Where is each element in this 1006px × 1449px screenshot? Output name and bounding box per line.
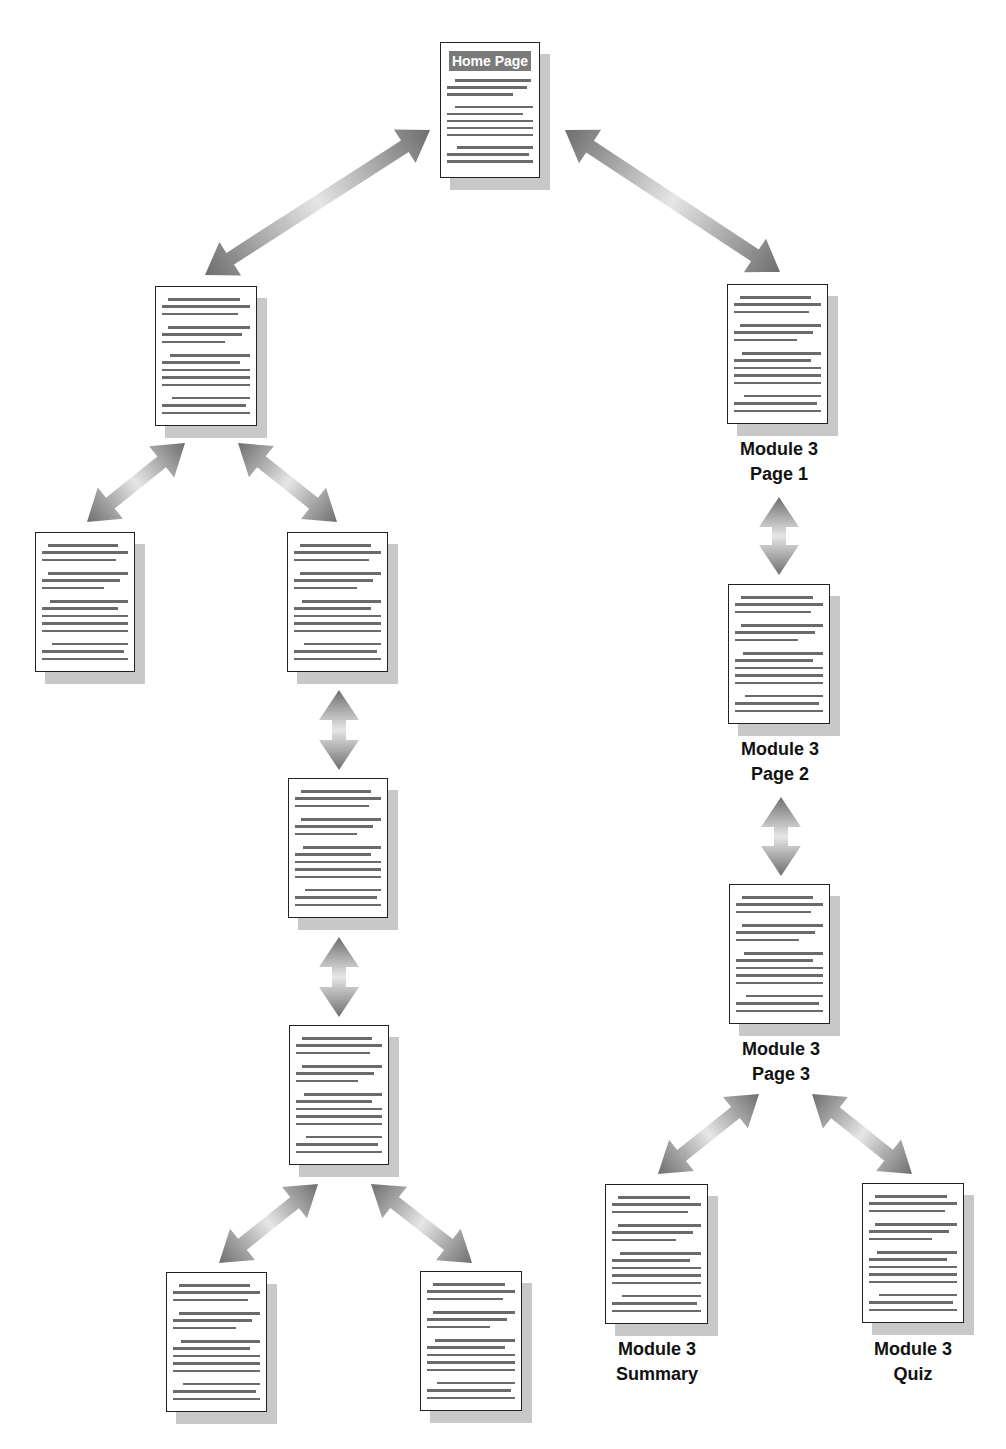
text-line [42, 559, 116, 562]
text-line [734, 359, 811, 362]
double-arrow-icon [205, 129, 430, 275]
text-line [618, 1196, 690, 1199]
text-line [303, 846, 381, 849]
text-line [741, 624, 823, 627]
text-line [741, 596, 812, 599]
text-line [42, 630, 128, 633]
text-line [735, 631, 815, 634]
text-line [295, 904, 381, 907]
text-line [173, 1319, 252, 1322]
text-line [295, 868, 381, 871]
text-line [301, 790, 371, 793]
text-line [734, 303, 821, 306]
text-line [295, 896, 377, 899]
text-line [172, 397, 250, 400]
text-line [294, 579, 373, 582]
double-arrow-icon [219, 1184, 318, 1263]
text-line [447, 134, 533, 137]
text-line [302, 1037, 372, 1040]
text-line [735, 674, 823, 677]
text-line [734, 311, 809, 314]
double-arrow-icon [87, 443, 185, 522]
text-line [300, 544, 371, 547]
navigation-arrows [0, 0, 1006, 1449]
text-line [734, 382, 821, 385]
text-line [869, 1281, 957, 1284]
text-line [736, 1002, 819, 1005]
page-sheet [420, 1271, 522, 1411]
label-line2: Page 3 [742, 1062, 820, 1087]
text-line [162, 313, 237, 316]
page-sheet [288, 778, 388, 918]
page-node-left-l2b [287, 532, 388, 672]
text-line [612, 1274, 701, 1277]
text-line [48, 572, 128, 575]
text-line [42, 622, 128, 625]
text-line [742, 896, 813, 899]
page-sheet [287, 532, 388, 672]
text-line [736, 982, 823, 985]
text-line [42, 551, 128, 554]
text-line [447, 160, 533, 163]
text-line [295, 861, 381, 864]
label-line1: Module 3 [741, 737, 819, 762]
text-line [42, 587, 104, 590]
text-line [620, 1252, 700, 1255]
text-line [42, 615, 128, 618]
text-line [734, 374, 821, 377]
text-line [427, 1361, 515, 1364]
text-line [162, 412, 250, 415]
double-arrow-icon [658, 1094, 759, 1174]
text-line [745, 695, 823, 698]
text-line [740, 296, 811, 299]
text-line [162, 384, 250, 387]
text-line [294, 615, 381, 618]
label-module3-quiz: Module 3 Quiz [874, 1337, 952, 1387]
text-line [295, 833, 357, 836]
page-node-m3summary [605, 1184, 708, 1324]
text-line [736, 939, 799, 942]
text-line [296, 1072, 374, 1075]
page-node-left-l4 [289, 1025, 389, 1165]
text-line [295, 825, 373, 828]
text-line [162, 404, 246, 407]
text-line [427, 1369, 515, 1372]
text-line [296, 1108, 382, 1111]
page-header-banner: Home Page [449, 51, 531, 71]
text-line [736, 967, 823, 970]
text-line [455, 79, 531, 82]
page-node-m3p3 [729, 884, 830, 1024]
text-line [296, 1143, 378, 1146]
text-line [162, 305, 250, 308]
text-line [869, 1266, 957, 1269]
text-line [734, 367, 821, 370]
text-line [42, 607, 118, 610]
text-line [447, 127, 533, 130]
text-line [875, 1223, 957, 1226]
text-line [173, 1347, 250, 1350]
label-module3-summary: Module 3 Summary [616, 1337, 698, 1387]
text-line [447, 86, 527, 89]
text-line [296, 1044, 382, 1047]
page-sheet [166, 1272, 267, 1412]
text-line [612, 1239, 676, 1242]
page-sheet [35, 532, 135, 672]
text-line [294, 650, 377, 653]
text-line [735, 682, 823, 685]
text-line [294, 607, 371, 610]
text-line [427, 1354, 515, 1357]
text-line [735, 603, 823, 606]
text-line [433, 1311, 515, 1314]
text-line [612, 1211, 688, 1214]
page-sheet [289, 1025, 389, 1165]
text-line [734, 339, 797, 342]
text-line [294, 551, 381, 554]
label-module3-page3: Module 3 Page 3 [742, 1037, 820, 1087]
text-line [735, 667, 823, 670]
text-line [173, 1362, 260, 1365]
text-line [173, 1299, 248, 1302]
text-line [296, 1151, 382, 1154]
text-line [457, 146, 533, 149]
double-arrow-icon [761, 797, 801, 876]
text-line [427, 1397, 515, 1400]
